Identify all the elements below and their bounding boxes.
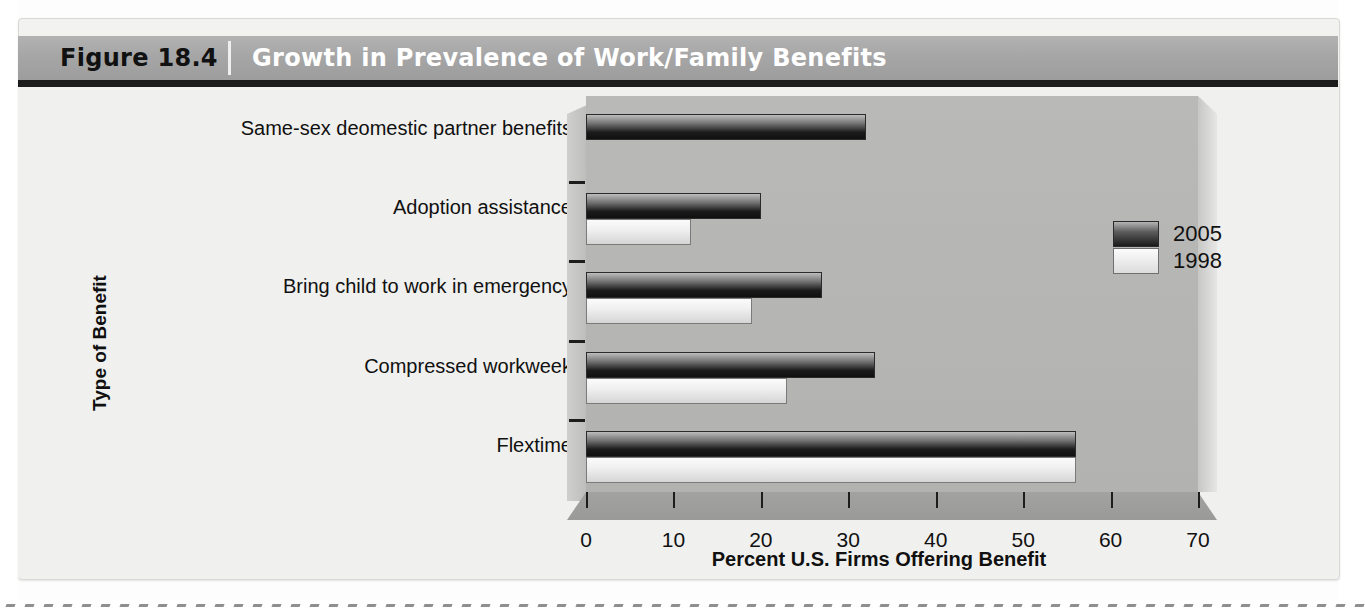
legend-item-2005: 2005 [1113,221,1222,247]
bar-2005-0 [586,114,866,140]
legend-label: 2005 [1173,221,1222,247]
x-axis-tick [586,492,588,508]
tear-dash [917,604,927,607]
tear-dash [1335,604,1345,607]
tear-dash [290,604,300,607]
tear-dash [5,604,15,607]
header-divider [228,41,231,75]
bar-2005-1 [586,193,761,219]
tear-dash [214,604,224,607]
category-tick [569,419,585,422]
plot-left-wall [567,105,587,501]
tear-dash [841,604,851,607]
figure-title: Growth in Prevalence of Work/Family Bene… [252,44,887,72]
plot-floor [567,492,1217,520]
x-axis-tick [673,492,675,508]
tear-dash [157,604,167,607]
legend-swatch-icon [1113,221,1159,247]
page-margin-right [1338,0,1356,616]
bar-1998-2 [586,298,752,324]
tear-dash [1278,604,1288,607]
tear-dash [233,604,243,607]
header-rule [18,80,1338,87]
x-axis-tick [1111,492,1113,508]
tear-dash [632,604,642,607]
tear-dash [119,604,129,607]
x-axis-tick [1198,492,1200,508]
x-axis-title: Percent U.S. Firms Offering Benefit [549,548,1209,571]
x-axis-tick [936,492,938,508]
tear-dash [81,604,91,607]
tear-dash [765,604,775,607]
tear-dash [1031,604,1041,607]
bars-layer [586,96,1198,492]
tear-dash [347,604,357,607]
tear-dash [138,604,148,607]
tear-dash [784,604,794,607]
tear-dash [499,604,509,607]
legend-label: 1998 [1173,248,1222,274]
bar-2005-2 [586,272,822,298]
bar-1998-4 [586,457,1076,483]
page-tear-strip [0,600,1356,616]
tear-dash [670,604,680,607]
tear-dash [1221,604,1231,607]
y-axis-category-label: Bring child to work in emergency [283,275,572,298]
tear-dash [62,604,72,607]
tear-dash [575,604,585,607]
y-axis-category-labels: Same-sex deomestic partner benefitsAdopt… [138,87,578,487]
tear-dash [822,604,832,607]
tear-dash [1107,604,1117,607]
tear-dash [898,604,908,607]
category-tick [569,181,585,184]
tear-dash [328,604,338,607]
tear-dash [24,604,34,607]
tear-dash [613,604,623,607]
tear-dash [404,604,414,607]
x-axis-tick [848,492,850,508]
plot-right-edge [1198,96,1217,492]
tear-dash [385,604,395,607]
chart-legend: 20051998 [1113,221,1283,283]
tear-dash [480,604,490,607]
tear-dash [461,604,471,607]
y-axis-category-label: Same-sex deomestic partner benefits [241,117,572,140]
tear-dash [100,604,110,607]
tear-dash [442,604,452,607]
y-axis-category-label: Adoption assistance [393,196,572,219]
tear-dash [974,604,984,607]
tear-dash [271,604,281,607]
chart-area: Type of Benefit Same-sex deomestic partn… [18,87,1338,578]
tear-dash [1126,604,1136,607]
bar-1998-3 [586,378,787,404]
tear-dash [1069,604,1079,607]
tear-dash [1050,604,1060,607]
tear-dash [1088,604,1098,607]
bar-2005-4 [586,431,1076,457]
tear-dash [1202,604,1212,607]
x-axis-tick [1023,492,1025,508]
tear-dash [936,604,946,607]
tear-dash [1145,604,1155,607]
tear-dash [1354,604,1364,607]
tear-dash [252,604,262,607]
tear-dash [423,604,433,607]
tear-dash [309,604,319,607]
tear-dash [43,604,53,607]
bar-1998-1 [586,219,691,245]
y-axis-category-label: Compressed workweek [364,355,572,378]
y-axis-title: Type of Benefit [89,233,111,453]
tear-dash [1164,604,1174,607]
tear-dash [176,604,186,607]
category-tick [569,260,585,263]
tear-dash [1183,604,1193,607]
tear-dash [689,604,699,607]
tear-dash [1240,604,1250,607]
tear-dash [746,604,756,607]
tear-dash [366,604,376,607]
tear-dash [1012,604,1022,607]
page-margin-left [0,0,18,616]
tear-dash [860,604,870,607]
tear-dash [651,604,661,607]
